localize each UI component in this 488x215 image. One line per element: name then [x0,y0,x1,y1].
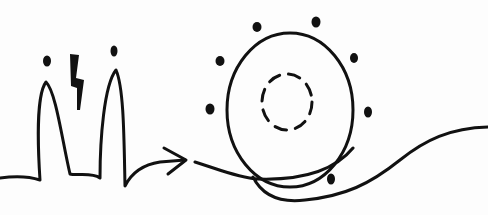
dot-icon [43,56,51,67]
dot-icon [111,46,118,57]
peaks-group [0,46,186,187]
dot-icon [206,104,215,115]
dot-icon [364,107,372,118]
orbit-group [195,17,488,201]
dot-icon [350,53,358,63]
wave-line [195,127,488,201]
lightning-icon [70,54,84,110]
sketch-canvas: Hand-drawn sketch: signal peaks with spa… [0,0,488,215]
dot-icon [216,56,225,66]
dot-icon [327,174,335,185]
sketch-drawing [0,0,488,215]
dot-icon [253,22,262,32]
inner-dashed-circle [262,74,312,130]
peaks-line [0,70,185,186]
dot-icon [312,17,321,28]
